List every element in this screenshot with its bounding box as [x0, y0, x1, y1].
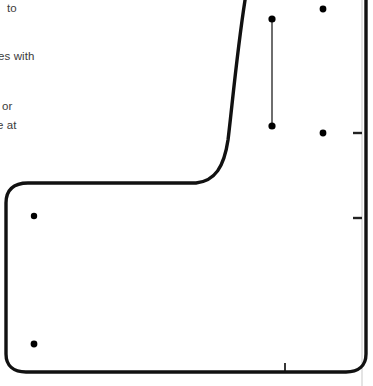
- point-upper-left: [31, 213, 37, 219]
- rounded-boundary-curve: [6, 0, 366, 372]
- point-upper-right: [320, 6, 327, 13]
- annotation-fragment-2: es with: [0, 50, 35, 63]
- annotation-fragment-3: or: [2, 100, 12, 113]
- figure-canvas: to es with or e at: [0, 0, 373, 386]
- plot-area: [0, 0, 373, 386]
- errorbar-top-cap: [268, 15, 275, 22]
- point-lower-right: [320, 130, 327, 137]
- point-lower-left: [31, 341, 38, 348]
- annotation-fragment-4: e at: [0, 119, 17, 132]
- annotation-fragment-1: to: [7, 2, 17, 15]
- errorbar-bottom-cap: [268, 122, 275, 129]
